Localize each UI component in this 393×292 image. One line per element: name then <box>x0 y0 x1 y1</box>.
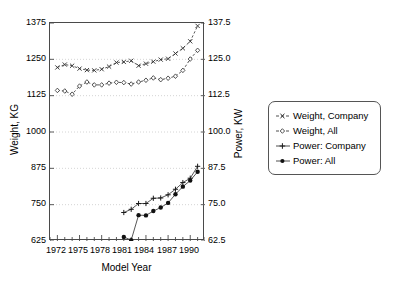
legend-label: Power: Company <box>292 141 366 151</box>
y-right-tick: 112.5 <box>208 90 230 99</box>
y-axis-right-title: Power, KW <box>233 101 244 167</box>
y-left-tick: 1125 <box>27 90 46 99</box>
y-axis-left-title: Weight, KG <box>9 95 20 165</box>
legend-item[interactable]: Power: Company <box>276 138 376 153</box>
x-tick: 1978 <box>90 246 110 255</box>
legend-item[interactable]: Power: All <box>276 153 376 168</box>
y-right-tick: 137.5 <box>208 18 231 27</box>
plot-canvas <box>50 23 205 241</box>
y-left-tick: 1375 <box>26 18 46 27</box>
diamond-marker-icon <box>276 125 292 137</box>
series-weight-all <box>55 48 199 96</box>
series-power-all <box>122 170 200 241</box>
y-left-tick: 625 <box>31 236 46 245</box>
circle-marker-icon <box>276 155 292 167</box>
y-left-tick: 1000 <box>26 127 46 136</box>
x-marker-icon <box>276 110 292 122</box>
legend-item[interactable]: Weight, Company <box>276 108 376 123</box>
legend-items: Weight, Company Weight, All Power: Compa… <box>276 108 376 168</box>
y-left-tick: 875 <box>31 163 46 172</box>
plot-area <box>49 22 204 240</box>
y-right-tick: 75.0 <box>208 199 226 208</box>
x-tick: 1987 <box>157 246 177 255</box>
x-axis-ticks: 1972 1975 1978 1981 1984 1987 1990 <box>0 246 260 260</box>
plus-marker-icon <box>276 140 292 152</box>
y-right-tick: 62.5 <box>208 236 226 245</box>
legend-label: Weight, Company <box>292 111 368 121</box>
y-right-tick: 100.0 <box>208 127 231 136</box>
y-left-tick: 750 <box>31 199 46 208</box>
legend-label: Power: All <box>292 156 335 166</box>
y-right-tick: 87.5 <box>208 163 226 172</box>
x-tick: 1984 <box>134 246 154 255</box>
data-series-layer <box>55 24 200 241</box>
series-weight-company <box>55 24 199 73</box>
legend-box: Weight, Company Weight, All Power: Compa… <box>268 101 381 175</box>
y-left-tick: 1250 <box>26 54 46 63</box>
chart-root: 1375 1250 1125 1000 875 750 625 137.5 12… <box>0 0 393 292</box>
x-tick: 1975 <box>68 246 88 255</box>
legend-label: Weight, All <box>292 126 338 136</box>
x-axis-title: Model Year <box>49 262 204 273</box>
x-tick: 1981 <box>112 246 132 255</box>
x-tick: 1990 <box>179 246 199 255</box>
axis-tick-marks <box>50 23 205 241</box>
legend-item[interactable]: Weight, All <box>276 123 376 138</box>
x-tick: 1972 <box>46 246 66 255</box>
y-right-tick: 125.0 <box>208 54 231 63</box>
